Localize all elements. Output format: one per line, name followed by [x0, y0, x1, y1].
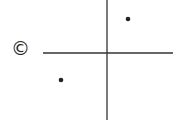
point-quadrant-3 — [59, 78, 64, 83]
point-quadrant-1 — [126, 17, 131, 22]
coordinate-plane — [0, 0, 181, 123]
